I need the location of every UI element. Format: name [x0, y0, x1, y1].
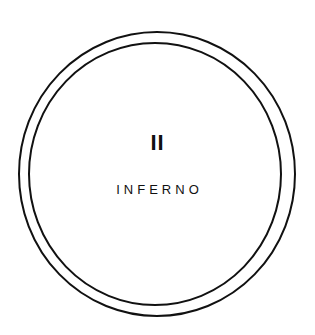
outer-circle [19, 32, 295, 316]
volume-numeral: II [0, 130, 315, 156]
book-cover: II INFERNO [0, 0, 315, 335]
double-circle-emblem [0, 0, 315, 335]
inner-circle [29, 43, 281, 305]
cover-title: INFERNO [2, 182, 315, 197]
